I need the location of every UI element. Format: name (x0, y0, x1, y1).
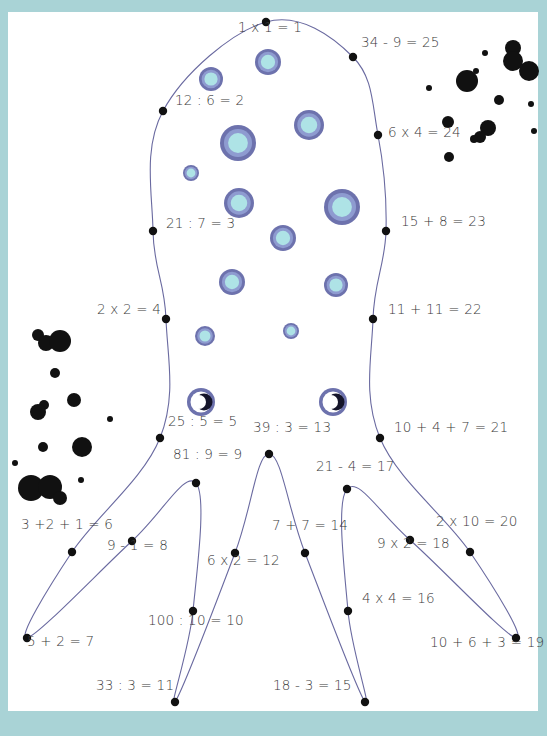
connect-dot-9 (192, 479, 200, 487)
octopus-spot (224, 188, 254, 218)
ink-blot (67, 393, 81, 407)
dot-label-16: 4 x 4 = 16 (362, 590, 435, 606)
connect-dot-6 (68, 548, 76, 556)
octopus-spot (220, 125, 256, 161)
connect-dot-23 (382, 227, 390, 235)
ink-blot (473, 68, 479, 74)
ink-blot (12, 460, 18, 466)
dot-label-20: 2 x 10 = 20 (436, 513, 518, 529)
ink-blot (531, 128, 537, 134)
octopus-artwork (0, 0, 547, 736)
connect-dot-16 (344, 607, 352, 615)
dot-label-7: 5 + 2 = 7 (27, 633, 94, 649)
dot-label-22: 11 + 11 = 22 (388, 301, 482, 317)
ink-blot (482, 50, 488, 56)
dot-label-8: 9 - 1 = 8 (107, 537, 168, 553)
connect-dot-17 (343, 485, 351, 493)
dot-label-15: 18 - 3 = 15 (273, 677, 352, 693)
dot-label-3: 21 : 7 = 3 (166, 215, 235, 231)
ink-blot (470, 135, 478, 143)
ink-blot (38, 442, 48, 452)
connect-dot-3 (149, 227, 157, 235)
dot-label-1: 1 x 1 = 1 (238, 19, 302, 35)
connect-dot-4 (162, 315, 170, 323)
dot-label-11: 33 : 3 = 11 (96, 677, 174, 693)
dot-label-6: 3 +2 + 1 = 6 (21, 516, 113, 532)
dot-label-23: 15 + 8 = 23 (401, 213, 486, 229)
dot-label-4: 2 x 2 = 4 (97, 301, 161, 317)
dot-label-10: 100 : 10 = 10 (148, 612, 244, 628)
ink-blot (50, 368, 60, 378)
connect-dot-24 (374, 131, 382, 139)
octopus-spot (199, 67, 223, 91)
ink-blot (53, 491, 67, 505)
octopus-spot (324, 273, 348, 297)
connect-dot-14 (301, 549, 309, 557)
connect-dot-22 (369, 315, 377, 323)
dot-label-25: 34 - 9 = 25 (361, 34, 440, 50)
dot-label-9: 81 : 9 = 9 (173, 446, 242, 462)
ink-blot (72, 437, 92, 457)
dot-label-21: 10 + 4 + 7 = 21 (394, 419, 508, 435)
octopus-spot (219, 269, 245, 295)
connect-dot-11 (171, 698, 179, 706)
ink-blot (444, 152, 454, 162)
connect-dot-21 (376, 434, 384, 442)
octopus-spot (324, 189, 360, 225)
ink-blot (426, 85, 432, 91)
octopus-spot (255, 49, 281, 75)
octopus-eye (319, 388, 347, 416)
dot-label-19: 10 + 6 + 3 = 19 (430, 634, 544, 650)
octopus-spot (195, 326, 215, 346)
connect-dot-13 (265, 450, 273, 458)
connect-dot-15 (361, 698, 369, 706)
octopus-spot (294, 110, 324, 140)
dot-label-18: 9 x 2 = 18 (377, 535, 450, 551)
dot-label-12: 6 x 2 = 12 (207, 552, 280, 568)
connect-dot-25 (349, 53, 357, 61)
ink-blot (494, 95, 504, 105)
connect-dot-5 (156, 434, 164, 442)
ink-blot (30, 404, 46, 420)
ink-blot (107, 416, 113, 422)
octopus-spot (283, 323, 299, 339)
dot-label-17: 21 - 4 = 17 (316, 458, 395, 474)
dot-label-2: 12 : 6 = 2 (175, 92, 244, 108)
connect-dot-20 (466, 548, 474, 556)
octopus-spot (183, 165, 199, 181)
ink-blot (528, 101, 534, 107)
dot-label-24: 6 x 4 = 24 (388, 124, 461, 140)
ink-blot (78, 477, 84, 483)
dot-label-14: 7 + 7 = 14 (272, 517, 348, 533)
octopus-spot (270, 225, 296, 251)
ink-blot (49, 330, 71, 352)
dot-label-13: 39 : 3 = 13 (253, 419, 331, 435)
octopus-eye (187, 388, 215, 416)
ink-blot (519, 61, 539, 81)
dot-label-5: 25 : 5 = 5 (168, 413, 237, 429)
connect-dot-2 (159, 107, 167, 115)
